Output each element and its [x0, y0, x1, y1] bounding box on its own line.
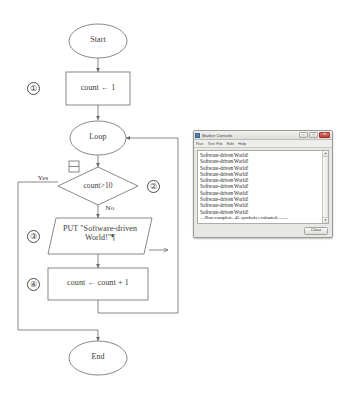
- scrollbar-thumb[interactable]: [323, 157, 328, 217]
- console-title: Marker Console: [202, 133, 299, 138]
- flowchart-connectors: [0, 0, 190, 395]
- menu-item-run[interactable]: Run: [196, 141, 204, 146]
- clear-button[interactable]: Clear: [304, 227, 328, 235]
- app-icon: [195, 133, 200, 138]
- menu-item-edit[interactable]: Edit: [227, 141, 234, 146]
- close-button[interactable]: ✕: [319, 132, 330, 138]
- run-summary-line: —Run complete. 45 symbols evaluated.——: [200, 215, 320, 221]
- page-canvas: Start count ← 1 Loop count>10 PUT "Softw…: [0, 0, 349, 395]
- console-footer: Clear: [194, 224, 332, 237]
- console-scrollbar[interactable]: ▲ ▼: [322, 151, 328, 223]
- step-marker-2: ②: [147, 180, 160, 193]
- menu-item-test-file[interactable]: Test File: [208, 141, 223, 146]
- decision-node-shape: [58, 167, 138, 205]
- console-menubar[interactable]: Run Test File Edit Help: [194, 140, 332, 148]
- console-titlebar[interactable]: Marker Console – □ ✕: [194, 131, 332, 140]
- console-output-text: Software-driven World! Software-driven W…: [198, 151, 322, 223]
- end-node-shape: [69, 341, 127, 375]
- maximize-button[interactable]: □: [309, 132, 318, 138]
- window-controls[interactable]: – □ ✕: [299, 132, 330, 138]
- loop-node-shape: [70, 121, 126, 155]
- increment-node-shape: [48, 268, 148, 300]
- console-window[interactable]: Marker Console – □ ✕ Run Test File Edit …: [193, 130, 333, 238]
- menu-item-help[interactable]: Help: [238, 141, 246, 146]
- flowchart-diagram: Start count ← 1 Loop count>10 PUT "Softw…: [0, 0, 190, 395]
- step-marker-1: ①: [27, 82, 40, 95]
- start-node-shape: [69, 24, 127, 58]
- output-node-shape: [48, 218, 152, 254]
- scroll-down-icon[interactable]: ▼: [323, 217, 328, 223]
- step-marker-3: ③: [27, 230, 40, 243]
- console-output-area[interactable]: Software-driven World! Software-driven W…: [197, 150, 329, 224]
- minimize-button[interactable]: –: [299, 132, 308, 138]
- init-node-shape: [66, 72, 130, 105]
- step-marker-4: ④: [27, 278, 40, 291]
